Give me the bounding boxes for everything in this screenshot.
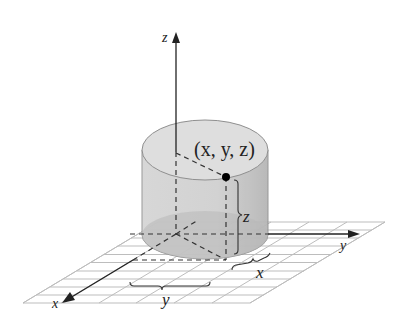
z-axis-label: z <box>161 30 168 45</box>
point-label: (x, y, z) <box>194 138 255 161</box>
cylinder-diagram: z y x (x, y, z) z x y <box>0 0 408 323</box>
z-axis-arrowhead <box>172 32 180 43</box>
x-brace-label: x <box>255 263 264 282</box>
z-brace-label: z <box>242 207 250 226</box>
point-marker <box>222 173 230 181</box>
y-brace-label: y <box>160 290 170 309</box>
x-axis-label: x <box>51 296 59 311</box>
y-axis-label: y <box>338 238 347 253</box>
